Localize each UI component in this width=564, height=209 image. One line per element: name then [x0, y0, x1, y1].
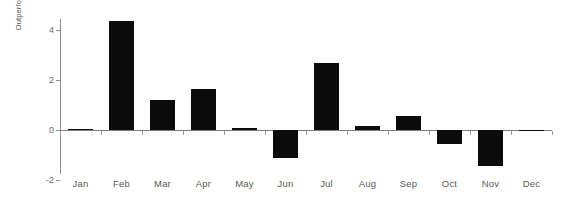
- bar-may: [232, 128, 257, 131]
- x-axis-tick-mark: [429, 131, 430, 135]
- bar-mar: [150, 100, 175, 130]
- y-axis-tick-label: 4: [36, 25, 54, 35]
- x-axis-tick-label-aug: Aug: [348, 178, 388, 189]
- y-axis-title: Outperformance (%): [14, 0, 23, 50]
- y-axis-tick-mark: [56, 30, 60, 31]
- y-axis-tick-label: -2: [36, 175, 54, 185]
- y-axis-tick-label: 2: [36, 75, 54, 85]
- bar-oct: [437, 130, 462, 144]
- y-axis-line: [60, 19, 61, 174]
- y-axis-tick-label: 0: [36, 125, 54, 135]
- x-axis-tick-mark: [470, 131, 471, 135]
- y-axis-tick-mark: [56, 180, 60, 181]
- bar-aug: [355, 126, 380, 130]
- plot-area: JanFebMarAprMayJunJulAugSepOctNovDec: [60, 0, 552, 209]
- x-axis-tick-mark: [388, 131, 389, 135]
- bar-jun: [273, 130, 298, 158]
- x-axis-tick-mark: [183, 131, 184, 135]
- bar-jul: [314, 63, 339, 131]
- x-axis-tick-label-dec: Dec: [512, 178, 552, 189]
- x-axis-tick-label-jun: Jun: [266, 178, 306, 189]
- x-axis-tick-label-may: May: [225, 178, 265, 189]
- bar-nov: [478, 130, 503, 166]
- x-axis-tick-mark: [142, 131, 143, 135]
- x-axis-tick-label-mar: Mar: [143, 178, 183, 189]
- x-axis-tick-mark: [306, 131, 307, 135]
- x-axis-tick-label-nov: Nov: [471, 178, 511, 189]
- x-axis-tick-label-feb: Feb: [102, 178, 142, 189]
- x-axis-tick-mark: [511, 131, 512, 135]
- x-axis-tick-mark: [552, 131, 553, 135]
- x-axis-tick-label-jul: Jul: [307, 178, 347, 189]
- bar-dec: [519, 130, 544, 131]
- bar-apr: [191, 89, 216, 130]
- x-axis-tick-label-oct: Oct: [430, 178, 470, 189]
- y-axis-tick-labels: -2024: [34, 0, 54, 209]
- x-axis-tick-mark: [60, 131, 61, 135]
- x-axis-tick-label-apr: Apr: [184, 178, 224, 189]
- x-axis-tick-mark: [101, 131, 102, 135]
- x-axis-tick-mark: [224, 131, 225, 135]
- x-axis-tick-label-jan: Jan: [61, 178, 101, 189]
- bar-sep: [396, 116, 421, 130]
- x-axis-tick-mark: [347, 131, 348, 135]
- bar-feb: [109, 21, 134, 130]
- x-axis-tick-mark: [265, 131, 266, 135]
- bar-jan: [68, 129, 93, 130]
- x-axis-tick-label-sep: Sep: [389, 178, 429, 189]
- y-axis-tick-mark: [56, 80, 60, 81]
- bar-chart: Outperformance (%) -2024 JanFebMarAprMay…: [0, 0, 564, 209]
